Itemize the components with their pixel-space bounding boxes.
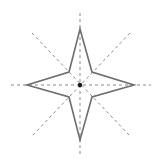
star-diagram [0,0,159,162]
center-point [78,83,82,87]
